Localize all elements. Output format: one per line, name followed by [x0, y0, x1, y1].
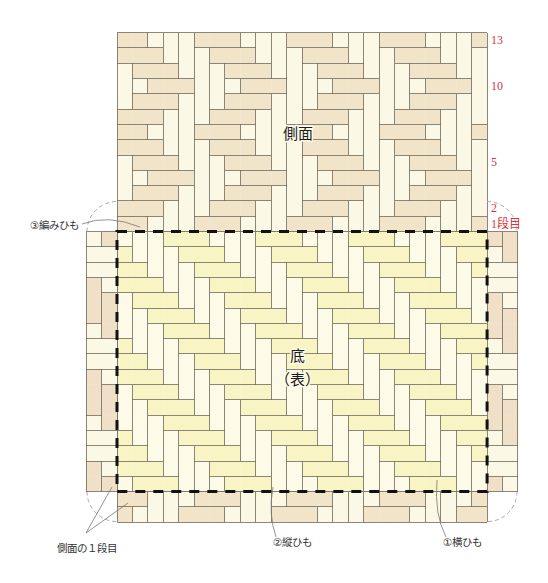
- weave-cell-horizontal: [256, 308, 272, 324]
- weave-cell-vertical: [456, 155, 472, 171]
- weave-cell-horizontal: [333, 277, 349, 293]
- weave-cell-vertical: [271, 293, 287, 309]
- weave-cell-horizontal: [333, 201, 349, 217]
- weave-cell-vertical: [333, 415, 349, 431]
- callout-side-first-row: 側面の１段目: [57, 542, 117, 554]
- weave-cell-horizontal: [333, 63, 349, 79]
- weave-cell-vertical: [441, 492, 457, 508]
- weave-cell-vertical: [179, 262, 195, 278]
- weave-cell-horizontal: [379, 33, 395, 49]
- weave-cell-vertical: [240, 247, 256, 263]
- weave-cell-vertical: [441, 124, 457, 140]
- weave-cell-horizontal: [271, 308, 287, 324]
- weave-cell-horizontal: [163, 400, 179, 416]
- weave-cell-vertical: [425, 446, 441, 462]
- weave-cell-horizontal: [210, 33, 226, 49]
- weave-cell-horizontal: [163, 385, 179, 401]
- weave-cell-vertical: [210, 186, 226, 202]
- weave-cell-horizontal: [132, 293, 148, 309]
- weave-cell-horizontal: [271, 400, 287, 416]
- weave-cell-vertical: [179, 354, 195, 370]
- weave-cell-horizontal: [256, 385, 272, 401]
- weave-cell-horizontal: [472, 33, 488, 49]
- weave-cell-vertical: [102, 385, 118, 401]
- weave-cell-vertical: [240, 216, 256, 232]
- weave-cell-horizontal: [271, 415, 287, 431]
- weave-cell-vertical: [256, 124, 272, 140]
- weave-cell-horizontal: [425, 140, 441, 156]
- weave-cell-vertical: [86, 476, 102, 492]
- weave-cell-horizontal: [194, 430, 210, 446]
- weave-cell-vertical: [240, 446, 256, 462]
- weave-cell-vertical: [148, 33, 164, 49]
- weave-cell-horizontal: [364, 247, 380, 263]
- weave-cell-vertical: [287, 170, 303, 186]
- weave-cell-vertical: [86, 369, 102, 385]
- weave-cell-vertical: [487, 323, 503, 339]
- weave-cell-horizontal: [240, 308, 256, 324]
- weave-cell-vertical: [317, 308, 333, 324]
- weave-cell-horizontal: [503, 446, 519, 462]
- weave-cell-horizontal: [210, 507, 226, 523]
- weave-cell-horizontal: [364, 323, 380, 339]
- weave-cell-vertical: [348, 140, 364, 156]
- weave-cell-vertical: [117, 308, 133, 324]
- weave-cell-horizontal: [194, 262, 210, 278]
- weave-cell-vertical: [179, 63, 195, 79]
- weave-cell-horizontal: [148, 48, 164, 64]
- weave-cell-horizontal: [456, 430, 472, 446]
- weave-cell-vertical: [364, 201, 380, 217]
- weave-cell-vertical: [271, 446, 287, 462]
- weave-cell-vertical: [441, 369, 457, 385]
- weave-cell-horizontal: [287, 430, 303, 446]
- weave-cell-vertical: [364, 293, 380, 309]
- weave-cell-horizontal: [317, 216, 333, 232]
- weave-cell-horizontal: [117, 48, 133, 64]
- weave-cell-vertical: [240, 507, 256, 523]
- weave-cell-horizontal: [240, 461, 256, 477]
- weave-cell-vertical: [163, 140, 179, 156]
- weave-cell-vertical: [425, 33, 441, 49]
- weave-cell-horizontal: [287, 446, 303, 462]
- weave-cell-horizontal: [117, 461, 133, 477]
- weave-cell-horizontal: [256, 170, 272, 186]
- weave-cell-vertical: [194, 461, 210, 477]
- weave-cell-horizontal: [271, 232, 287, 248]
- weave-cell-vertical: [410, 323, 426, 339]
- weave-cell-horizontal: [117, 109, 133, 125]
- weave-cell-horizontal: [210, 216, 226, 232]
- weave-cell-vertical: [456, 354, 472, 370]
- weave-cell-vertical: [456, 277, 472, 293]
- weave-cell-horizontal: [210, 354, 226, 370]
- weave-cell-vertical: [256, 507, 272, 523]
- weave-cell-horizontal: [333, 400, 349, 416]
- weave-cell-horizontal: [395, 277, 411, 293]
- weave-cell-vertical: [348, 354, 364, 370]
- weave-cell-horizontal: [348, 385, 364, 401]
- weave-cell-horizontal: [410, 461, 426, 477]
- weave-cell-vertical: [395, 308, 411, 324]
- weave-cell-horizontal: [487, 446, 503, 462]
- weave-cell-horizontal: [333, 79, 349, 95]
- weave-cell-vertical: [256, 48, 272, 64]
- weave-cell-horizontal: [148, 293, 164, 309]
- weave-cell-vertical: [364, 277, 380, 293]
- weave-cell-vertical: [425, 354, 441, 370]
- weave-cell-horizontal: [456, 79, 472, 95]
- weave-cell-vertical: [302, 323, 318, 339]
- weave-cell-horizontal: [379, 339, 395, 355]
- weave-cell-horizontal: [456, 323, 472, 339]
- weave-cell-vertical: [302, 308, 318, 324]
- weave-cell-horizontal: [102, 339, 118, 355]
- weave-cell-horizontal: [148, 277, 164, 293]
- weave-cell-horizontal: [472, 415, 488, 431]
- weave-cell-vertical: [348, 492, 364, 508]
- weave-cell-vertical: [117, 293, 133, 309]
- weave-cell-horizontal: [287, 492, 303, 508]
- weave-cell-horizontal: [240, 369, 256, 385]
- weave-cell-vertical: [225, 339, 241, 355]
- weave-cell-horizontal: [225, 369, 241, 385]
- weave-cell-vertical: [287, 308, 303, 324]
- weave-cell-horizontal: [456, 507, 472, 523]
- weave-cell-vertical: [425, 262, 441, 278]
